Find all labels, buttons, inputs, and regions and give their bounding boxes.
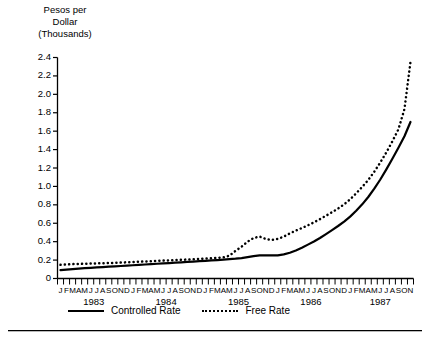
dotted-line-swatch-icon: [202, 310, 238, 312]
y-axis-tick-label: 0.2: [17, 255, 51, 265]
y-axis-tick-label: 0.8: [17, 199, 51, 209]
y-axis-tick-label: 0.4: [17, 236, 51, 246]
y-axis-tick-label: 1.8: [17, 107, 51, 117]
legend-label-free-rate: Free Rate: [245, 305, 289, 316]
y-axis-tick-label: 2.0: [17, 89, 51, 99]
y-axis-tick-label: 2.2: [17, 70, 51, 80]
chart-legend: Controlled Rate Free Rate: [0, 305, 430, 323]
series-line-controlled-rate: [61, 122, 411, 270]
legend-item-controlled-rate: Controlled Rate: [68, 305, 180, 316]
y-axis-tick-label: 2.4: [17, 52, 51, 62]
legend-item-free-rate: Free Rate: [202, 305, 289, 316]
y-axis-tick-label: 1.0: [17, 181, 51, 191]
series-line-free-rate: [61, 62, 411, 265]
chart-figure: Pesos per Dollar (Thousands) 2.42.22.01.…: [0, 0, 430, 338]
x-axis-month-label: N: [405, 286, 415, 295]
y-axis-tick-label: 0: [17, 273, 51, 283]
y-axis-tick-label: 1.2: [17, 163, 51, 173]
y-axis-tick-label: 1.4: [17, 144, 51, 154]
solid-line-swatch-icon: [68, 310, 104, 312]
legend-label-controlled-rate: Controlled Rate: [111, 305, 180, 316]
y-axis-tick-label: 1.6: [17, 126, 51, 136]
y-axis-tick-label: 0.6: [17, 218, 51, 228]
bottom-divider: [8, 330, 422, 332]
